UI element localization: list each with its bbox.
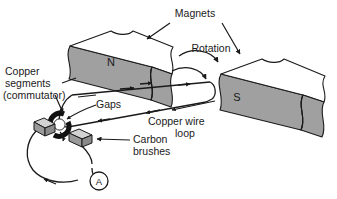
commutator-shaft	[54, 119, 65, 130]
label-rotation: Rotation	[191, 42, 230, 54]
rotation-arc-lower	[172, 68, 206, 79]
carbon-brush-right	[69, 129, 92, 147]
label-copper-segments-line1: Copper	[5, 65, 40, 77]
rotation-arrows	[172, 51, 218, 79]
label-copper-wire-line1: Copper wire	[148, 115, 205, 127]
label-magnets: Magnets	[175, 7, 215, 19]
label-gaps: Gaps	[96, 98, 121, 110]
label-copper-segments-line2: segments	[5, 77, 51, 89]
magnet-south: S	[219, 59, 325, 137]
magnet-north-pole-label: N	[107, 56, 115, 68]
loop-arrow-upper-2	[178, 84, 190, 85]
magnet-south-right-end	[301, 95, 324, 137]
ammeter-label: A	[96, 176, 103, 187]
motor-diagram-figure: N S	[0, 0, 337, 199]
diagram-canvas: N S	[0, 0, 337, 199]
wire-loop-right-end	[206, 82, 215, 102]
label-copper-wire-line2: loop	[175, 127, 195, 139]
loop-arrow-lower	[146, 110, 160, 113]
leader-copper-segments-tail-2	[78, 95, 96, 97]
leader-gaps	[67, 105, 96, 119]
leader-copper-wire-loop	[172, 101, 215, 110]
magnet-south-pole-label: S	[233, 91, 240, 103]
label-copper-segments-line3: (commutator)	[3, 89, 65, 101]
circuit-wire-right	[82, 146, 92, 164]
label-carbon-brushes-line1: Carbon	[133, 133, 168, 145]
leader-magnets-left	[147, 23, 170, 39]
leader-carbon-brushes	[97, 139, 130, 140]
label-carbon-brushes-line2: brushes	[133, 145, 170, 157]
